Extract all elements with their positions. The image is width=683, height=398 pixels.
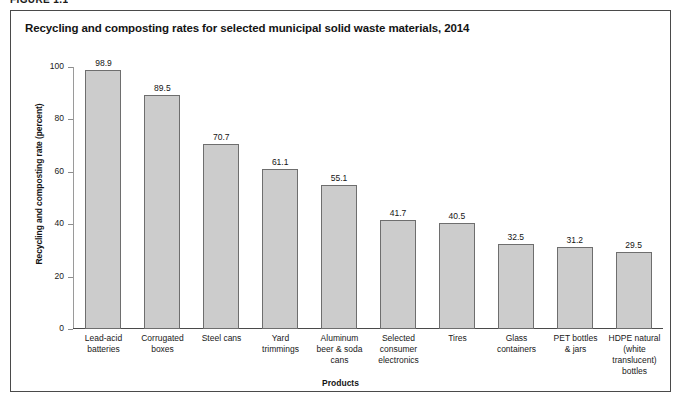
bar-slot: 32.5 (486, 67, 545, 329)
x-category-label: HDPE natural(white translucent)bottles (605, 333, 664, 377)
bar-slot: 40.5 (427, 67, 486, 329)
y-tick-label: 40 (55, 218, 64, 228)
x-category-label: Selectedconsumerelectronics (369, 333, 428, 366)
y-tick: 60 (68, 172, 73, 173)
bar-value-label: 41.7 (369, 208, 428, 218)
x-category-label-line: electronics (370, 355, 427, 366)
x-category-label-line: containers (488, 344, 545, 355)
bar-slot: 61.1 (251, 67, 310, 329)
x-axis-category-labels: Lead-acidbatteriesCorrugatedboxesSteel c… (74, 333, 664, 377)
bar[interactable] (439, 223, 475, 329)
x-category-label: Aluminumbeer & sodacans (310, 333, 369, 366)
bar-value-label: 40.5 (427, 211, 486, 221)
chart-title: Recycling and composting rates for selec… (25, 22, 469, 34)
y-axis-title: Recycling and composting rate (percent) (34, 94, 44, 274)
bar-slot: 89.5 (133, 67, 192, 329)
y-tick-label: 80 (55, 113, 64, 123)
x-category-label-line: beer & soda (311, 344, 368, 355)
bar-value-label: 55.1 (310, 173, 369, 183)
x-category-label-line: cans (311, 355, 368, 366)
x-category-label: Tires (428, 333, 487, 344)
bar-slot: 55.1 (310, 67, 369, 329)
bar-value-label: 61.1 (251, 157, 310, 167)
bar[interactable] (616, 252, 652, 329)
bar-value-label: 32.5 (486, 232, 545, 242)
x-axis-title: Products (11, 378, 670, 388)
x-category-label-line: Selected (370, 333, 427, 344)
bar-value-label: 70.7 (192, 132, 251, 142)
bar[interactable] (144, 95, 180, 329)
y-tick-label: 100 (50, 61, 64, 71)
figure-box: Recycling and composting rates for selec… (10, 10, 671, 392)
bar-value-label: 31.2 (545, 235, 604, 245)
bar-value-label: 89.5 (133, 83, 192, 93)
y-tick-label: 20 (55, 271, 64, 281)
bar-slot: 98.9 (74, 67, 133, 329)
x-category-label: Steel cans (192, 333, 251, 344)
x-category-label-line: Glass (488, 333, 545, 344)
x-category-label-line: Yard (252, 333, 309, 344)
x-category-label: Lead-acidbatteries (74, 333, 133, 355)
y-tick: 20 (68, 277, 73, 278)
y-tick: 0 (68, 329, 73, 330)
bar-series: 98.989.570.761.155.141.740.532.531.229.5 (74, 67, 663, 329)
y-tick-label: 0 (59, 323, 64, 333)
bar[interactable] (85, 70, 121, 329)
y-tick: 100 (68, 67, 73, 68)
x-category-label: Corrugatedboxes (133, 333, 192, 355)
x-category-label: PET bottles& jars (546, 333, 605, 355)
x-category-label-line: Tires (429, 333, 486, 344)
bar[interactable] (321, 185, 357, 329)
x-category-label-line: Steel cans (193, 333, 250, 344)
x-category-label: Glasscontainers (487, 333, 546, 355)
bar[interactable] (557, 247, 593, 329)
bar-slot: 70.7 (192, 67, 251, 329)
bar[interactable] (498, 244, 534, 329)
y-tick: 80 (68, 119, 73, 120)
plot-area: 020406080100 98.989.570.761.155.141.740.… (73, 67, 663, 329)
x-category-label-line: PET bottles (547, 333, 604, 344)
x-category-label: Yardtrimmings (251, 333, 310, 355)
x-category-label-line: Corrugated (134, 333, 191, 344)
x-category-label-line: Aluminum (311, 333, 368, 344)
x-category-label-line: bottles (606, 366, 663, 377)
x-category-label-line: & jars (547, 344, 604, 355)
x-category-label-line: trimmings (252, 344, 309, 355)
y-tick-label: 60 (55, 166, 64, 176)
x-category-label-line: HDPE natural (606, 333, 663, 344)
x-category-label-line: Lead-acid (75, 333, 132, 344)
bar-value-label: 98.9 (74, 58, 133, 68)
x-category-label-line: (white translucent) (606, 344, 663, 366)
figure-number: FIGURE 1.1 (10, 0, 68, 5)
x-category-label-line: batteries (75, 344, 132, 355)
x-category-label-line: consumer (370, 344, 427, 355)
bar[interactable] (262, 169, 298, 329)
bar[interactable] (380, 220, 416, 329)
bar-slot: 41.7 (369, 67, 428, 329)
bar-slot: 31.2 (545, 67, 604, 329)
bar-value-label: 29.5 (604, 240, 663, 250)
y-tick: 40 (68, 224, 73, 225)
bar[interactable] (203, 144, 239, 329)
x-category-label-line: boxes (134, 344, 191, 355)
bar-slot: 29.5 (604, 67, 663, 329)
